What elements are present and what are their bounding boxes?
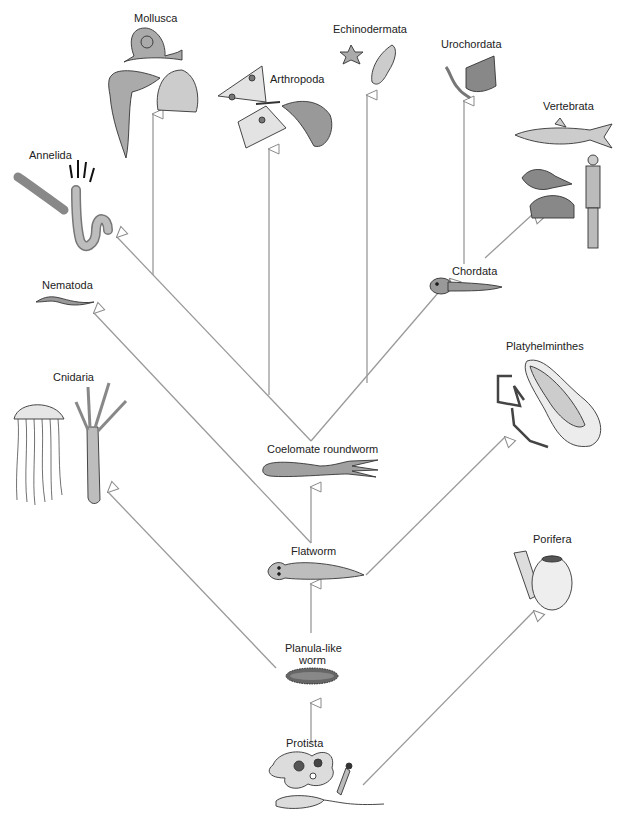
label-planula-worm: worm [299, 654, 326, 666]
flatworm-illustration-icon [268, 563, 364, 580]
label-arthropoda: Arthropoda [270, 73, 324, 85]
label-mollusca: Mollusca [134, 12, 177, 24]
edge-coelomate-chordata [311, 279, 450, 441]
label-echinodermata: Echinodermata [333, 23, 407, 35]
urochordata-illustration-icon [446, 56, 496, 98]
chordata-illustration-icon [430, 278, 502, 294]
edge-protista-porifera [363, 611, 534, 785]
label-platyhelminthes: Platyhelminthes [506, 340, 584, 352]
nematoda-illustration-icon [36, 297, 94, 305]
platyhelminthes-illustration-icon [498, 360, 601, 447]
planula-illustration-icon [286, 668, 338, 684]
protista-illustration-icon [269, 752, 384, 809]
label-protista: Protista [286, 737, 323, 749]
annelida-illustration-icon [18, 160, 108, 246]
label-porifera: Porifera [533, 533, 572, 545]
label-coelomate-roundworm: Coelomate roundworm [267, 443, 378, 455]
label-annelida: Annelida [29, 149, 72, 161]
coelomate-roundworm-illustration-icon [263, 460, 378, 477]
cnidaria-illustration-icon [14, 383, 126, 505]
tree-lines [0, 0, 624, 822]
edge-flatworm-platyhelminthes [366, 437, 505, 575]
edge-chordata-vertebrata [485, 213, 534, 258]
echinodermata-illustration-icon [340, 45, 395, 84]
label-vertebrata: Vertebrata [543, 100, 594, 112]
label-chordata: Chordata [452, 265, 497, 277]
phylogenetic-tree-diagram: Protista Planula-like worm Flatworm Coel… [0, 0, 624, 822]
vertebrata-illustration-icon [515, 118, 612, 248]
porifera-illustration-icon [514, 551, 572, 610]
edge-flatworm-nematoda [94, 313, 311, 543]
label-urochordata: Urochordata [441, 38, 502, 50]
edge-coelomate-annelida [117, 237, 311, 441]
label-flatworm: Flatworm [291, 545, 336, 557]
label-nematoda: Nematoda [42, 279, 93, 291]
label-planula-like: Planula-like [285, 642, 342, 654]
edge-planula-cnidaria [108, 492, 276, 668]
label-cnidaria: Cnidaria [53, 371, 94, 383]
